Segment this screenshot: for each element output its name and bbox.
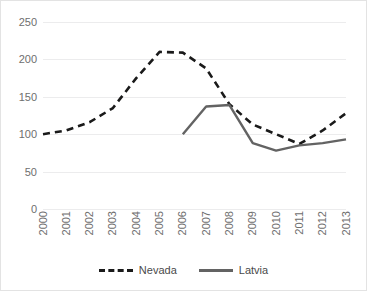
line-chart: 050100150200250 200020012002200320042005… bbox=[0, 0, 367, 291]
gridline bbox=[43, 209, 346, 210]
x-axis-tick: 2002 bbox=[83, 211, 97, 235]
x-axis-tick: 2006 bbox=[176, 211, 190, 235]
series-layer bbox=[43, 22, 346, 209]
legend-item-latvia[interactable]: Latvia bbox=[199, 265, 268, 276]
x-axis-tick: 2011 bbox=[292, 211, 306, 235]
x-axis-tick-label: 2009 bbox=[247, 211, 258, 235]
x-axis-tick-label: 2003 bbox=[107, 211, 118, 235]
x-axis-tick: 2003 bbox=[106, 211, 120, 235]
x-axis-tick: 2000 bbox=[36, 211, 50, 235]
x-axis-tick: 2008 bbox=[222, 211, 236, 235]
x-axis-tick: 2005 bbox=[153, 211, 167, 235]
x-axis-tick-label: 2011 bbox=[294, 211, 305, 235]
x-axis-tick: 2001 bbox=[59, 211, 73, 235]
x-axis-tick-label: 2000 bbox=[38, 211, 49, 235]
series-line-nevada bbox=[43, 52, 346, 144]
y-axis-tick-label: 250 bbox=[19, 17, 37, 28]
x-axis-tick: 2009 bbox=[246, 211, 260, 235]
x-axis-tick: 2013 bbox=[339, 211, 353, 235]
x-axis-tick-label: 2002 bbox=[84, 211, 95, 235]
x-axis-labels: 2000200120022003200420052006200720082009… bbox=[43, 211, 346, 257]
y-axis-tick-label: 200 bbox=[19, 54, 37, 65]
x-axis-tick-label: 2004 bbox=[131, 211, 142, 235]
legend-item-nevada[interactable]: Nevada bbox=[99, 265, 177, 276]
y-axis-tick-label: 150 bbox=[19, 91, 37, 102]
x-axis-tick-label: 2001 bbox=[61, 211, 72, 235]
solid-line-swatch-icon bbox=[199, 269, 233, 272]
x-axis-tick-label: 2007 bbox=[201, 211, 212, 235]
x-axis-tick: 2010 bbox=[269, 211, 283, 235]
plot-area: 050100150200250 bbox=[43, 22, 346, 209]
x-axis-tick-label: 2010 bbox=[271, 211, 282, 235]
x-axis-tick-label: 2006 bbox=[177, 211, 188, 235]
x-axis-tick-label: 2005 bbox=[154, 211, 165, 235]
y-axis-tick-label: 50 bbox=[25, 166, 37, 177]
legend-label-nevada: Nevada bbox=[139, 265, 177, 276]
series-line-latvia bbox=[183, 105, 346, 151]
chart-legend: Nevada Latvia bbox=[1, 265, 366, 276]
x-axis-tick: 2004 bbox=[129, 211, 143, 235]
x-axis-tick-label: 2013 bbox=[341, 211, 352, 235]
x-axis-tick: 2012 bbox=[316, 211, 330, 235]
x-axis-tick: 2007 bbox=[199, 211, 213, 235]
x-axis-tick-label: 2012 bbox=[317, 211, 328, 235]
y-axis-tick-label: 100 bbox=[19, 129, 37, 140]
legend-label-latvia: Latvia bbox=[239, 265, 268, 276]
dashed-line-swatch-icon bbox=[99, 269, 133, 272]
x-axis-tick-label: 2008 bbox=[224, 211, 235, 235]
